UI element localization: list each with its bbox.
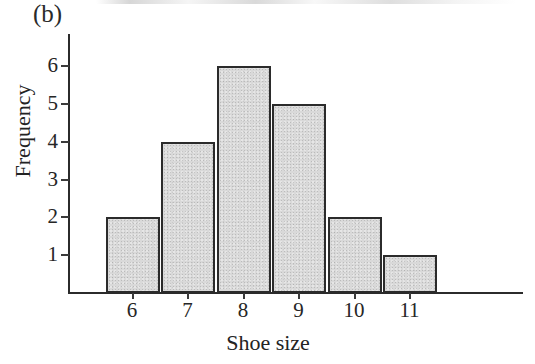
bar-7 — [161, 142, 215, 293]
y-tick-mark — [61, 65, 69, 67]
y-tick-label-text: 5 — [36, 93, 58, 114]
y-tick-mark — [61, 141, 69, 143]
bar-9 — [272, 104, 326, 293]
y-tick-mark — [61, 254, 69, 256]
panel-label: (b) — [33, 1, 62, 26]
x-tick-label: 11 — [383, 300, 437, 321]
x-tick-label: 8 — [216, 300, 270, 321]
bar-8 — [217, 66, 271, 293]
x-tick-label: 10 — [327, 300, 381, 321]
y-tick-mark — [61, 216, 69, 218]
y-tick-mark — [61, 103, 69, 105]
y-tick-label: 6 — [28, 55, 58, 57]
x-tick-label: 6 — [105, 300, 159, 321]
scan-artifact — [96, 0, 516, 4]
y-tick-label-text: 4 — [36, 131, 58, 152]
x-axis-title: Shoe size — [68, 332, 468, 354]
bar-11 — [383, 255, 437, 293]
y-tick-label: 2 — [28, 206, 58, 208]
y-tick-label-text: 3 — [36, 169, 58, 190]
y-tick-mark — [61, 179, 69, 181]
figure-panel: (b) 123456 67891011 Shoe size Frequency — [0, 0, 535, 364]
y-tick-label-text: 1 — [36, 244, 58, 265]
y-tick-label: 1 — [28, 244, 58, 246]
y-tick-label-text: 2 — [36, 206, 58, 227]
y-tick-label-text: 6 — [36, 55, 58, 76]
y-axis-title: Frequency — [12, 61, 34, 201]
bar-6 — [106, 217, 160, 293]
bar-10 — [328, 217, 382, 293]
x-tick-label: 7 — [161, 300, 215, 321]
x-tick-label: 9 — [272, 300, 326, 321]
